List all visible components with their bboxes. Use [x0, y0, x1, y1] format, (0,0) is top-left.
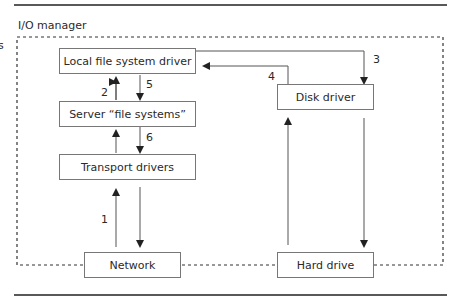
step-3-label: 3 — [373, 53, 380, 66]
step-1-label: 1 — [101, 213, 108, 226]
local-file-system-driver-box: Local file system driver — [59, 48, 196, 74]
step-5-label: 5 — [146, 78, 153, 91]
step-2-label: 2 — [101, 86, 108, 99]
server-file-systems-box: Server “file systems” — [59, 101, 196, 127]
edge-text-fragment: s — [0, 39, 4, 52]
disk-driver-box: Disk driver — [277, 84, 374, 110]
transport-drivers-box: Transport drivers — [59, 154, 196, 180]
network-box: Network — [84, 252, 181, 278]
step-4-label: 4 — [268, 70, 275, 83]
hard-drive-box: Hard drive — [277, 252, 374, 278]
step-6-label: 6 — [146, 131, 153, 144]
io-manager-label: I/O manager — [18, 19, 87, 32]
diagram-lines — [0, 0, 464, 298]
